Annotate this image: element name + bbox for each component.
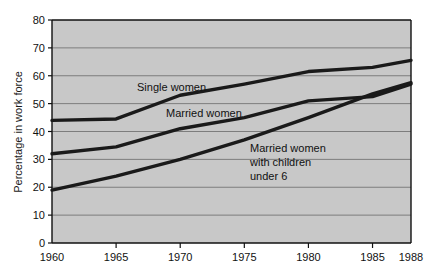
y-axis-tick-label: 0 bbox=[39, 237, 45, 249]
y-axis-tick-label: 50 bbox=[33, 98, 45, 110]
series-inline-label: Married women bbox=[166, 107, 242, 119]
series-inline-label: with children bbox=[249, 156, 311, 168]
y-axis-tick-label: 10 bbox=[33, 209, 45, 221]
y-axis-tick-label: 20 bbox=[33, 181, 45, 193]
y-axis-tick-label: 80 bbox=[33, 14, 45, 26]
x-axis-tick-label: 1980 bbox=[296, 251, 320, 263]
x-axis-tick-label: 1985 bbox=[360, 251, 384, 263]
x-axis-tick-label: 1988 bbox=[399, 251, 423, 263]
series-inline-label: Single women bbox=[137, 81, 206, 93]
x-axis-tick-label: 1965 bbox=[104, 251, 128, 263]
y-axis-tick-labels: 01020304050607080 bbox=[33, 14, 45, 249]
y-axis-tick-label: 70 bbox=[33, 42, 45, 54]
y-axis-tick-label: 30 bbox=[33, 153, 45, 165]
y-axis-tick-label: 60 bbox=[33, 70, 45, 82]
x-axis-tick-label: 1960 bbox=[40, 251, 64, 263]
line-chart: 01020304050607080 1960196519701975198019… bbox=[0, 0, 441, 277]
y-axis-tick-label: 40 bbox=[33, 126, 45, 138]
x-axis-tick-label: 1975 bbox=[232, 251, 256, 263]
x-axis-tick-label: 1970 bbox=[168, 251, 192, 263]
y-axis-title: Percentage in work force bbox=[12, 71, 24, 193]
series-inline-label: under 6 bbox=[250, 170, 287, 182]
series-inline-label: Married women bbox=[250, 142, 326, 154]
chart-container: 01020304050607080 1960196519701975198019… bbox=[0, 0, 441, 277]
